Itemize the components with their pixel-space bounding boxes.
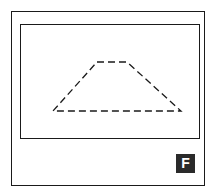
figure-label-badge: F — [176, 154, 195, 173]
